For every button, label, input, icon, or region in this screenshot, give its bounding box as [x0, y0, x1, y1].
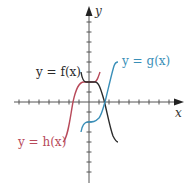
y-axis: [86, 6, 93, 183]
x-axis: [14, 99, 184, 106]
label-g: y = g(x): [121, 54, 170, 68]
label-h: y = h(x): [17, 135, 66, 149]
y-axis-label: y: [94, 4, 102, 18]
function-graph: y = f(x) y = g(x) y = h(x) x y: [0, 0, 188, 191]
y-axis-arrow-icon: [86, 6, 93, 16]
x-axis-label: x: [175, 106, 182, 120]
label-f: y = f(x): [35, 65, 81, 79]
x-axis-arrow-icon: [174, 99, 184, 106]
